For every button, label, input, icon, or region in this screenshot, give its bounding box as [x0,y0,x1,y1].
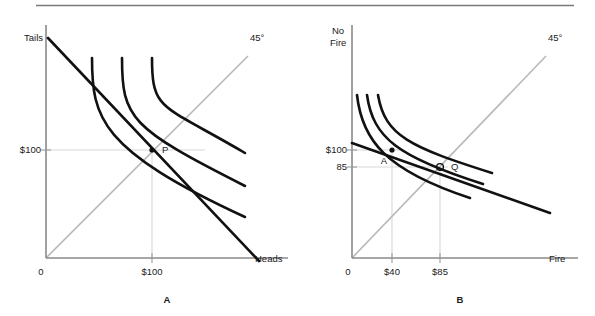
panel-b-y-tick-label-100: $100 [326,144,347,155]
panel-a-caption: A [164,294,171,305]
figure-container: Tails Heads $100 $100 0 45° P A [0,0,595,316]
panel-a: Tails Heads $100 $100 0 45° P A [20,25,288,305]
panel-a-45-degree-ray [46,56,248,258]
panel-a-y-axis-label: Tails [24,32,43,43]
panel-b-x-tick-label-85: $85 [432,266,448,277]
panel-a-45-degree-label: 45° [250,32,265,43]
panel-b: No Fire Fire $100 85 $40 $85 0 45° A Q B [326,25,578,305]
panel-b-point-q-label: Q [451,161,458,172]
panel-a-origin-label: 0 [38,266,43,277]
panel-b-x-tick-label-40: $40 [384,266,400,277]
figure-svg: Tails Heads $100 $100 0 45° P A [0,0,595,316]
panel-b-x-axis-label: Fire [549,253,565,264]
panel-a-y-tick-label-100: $100 [20,144,41,155]
panel-b-y-tick-label-85: 85 [336,161,347,172]
panel-b-y-axis-label-line2: Fire [330,37,346,48]
panel-b-caption: B [457,294,464,305]
panel-b-45-degree-label: 45° [548,32,563,43]
panel-a-x-tick-label-100: $100 [141,266,162,277]
panel-b-y-axis-label-line1: No [332,25,344,36]
panel-b-point-a-marker [389,147,394,152]
panel-b-budget-line [352,143,550,213]
panel-a-x-axis-label: Heads [255,253,283,264]
panel-b-indifference-curve-1 [357,95,470,198]
panel-b-point-a-label: A [381,155,388,166]
panel-a-point-p-label: P [162,144,168,155]
panel-a-point-p-marker [149,147,154,152]
panel-b-origin-label: 0 [345,266,350,277]
